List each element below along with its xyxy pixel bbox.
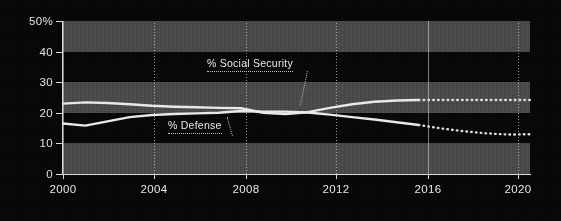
y-axis-label-30: 30 — [40, 76, 53, 88]
annotation-defense-label: % Defense — [168, 119, 222, 131]
y-axis-line — [62, 21, 63, 174]
x-axis-label-2000: 2000 — [49, 183, 76, 195]
annotation-social-security: % Social Security — [207, 57, 293, 72]
annotation-defense-underline — [168, 133, 222, 134]
x-tick-2012 — [336, 174, 337, 179]
plot-area — [63, 21, 530, 174]
y-axis-label-10: 10 — [40, 137, 53, 149]
x-axis-label-2016: 2016 — [414, 183, 441, 195]
defense-solid-line — [63, 111, 419, 126]
x-tick-2000 — [63, 174, 64, 179]
annotation-social-security-label: % Social Security — [207, 57, 293, 69]
x-axis-label-2020: 2020 — [504, 183, 531, 195]
defense-projection-line — [419, 125, 530, 134]
annotation-defense: % Defense — [168, 119, 222, 134]
series-defense — [63, 111, 530, 135]
x-tick-2016 — [428, 174, 429, 179]
x-tick-2008 — [246, 174, 247, 179]
x-tick-2004 — [154, 174, 155, 179]
x-axis-label-2012: 2012 — [322, 183, 349, 195]
x-axis-label-2008: 2008 — [232, 183, 259, 195]
y-axis-label-50: 50% — [29, 15, 53, 27]
x-axis-label-2004: 2004 — [140, 183, 167, 195]
annotation-social-security-underline — [207, 71, 293, 72]
series-lines — [63, 21, 530, 174]
chart-container: 50% 40 30 20 10 0 — [0, 0, 561, 221]
y-axis-label-0: 0 — [46, 168, 53, 180]
x-axis-line — [62, 174, 531, 175]
x-tick-2020 — [518, 174, 519, 179]
y-axis-label-20: 20 — [40, 107, 53, 119]
y-axis-labels: 50% 40 30 20 10 0 — [0, 0, 53, 221]
y-axis-label-40: 40 — [40, 46, 53, 58]
